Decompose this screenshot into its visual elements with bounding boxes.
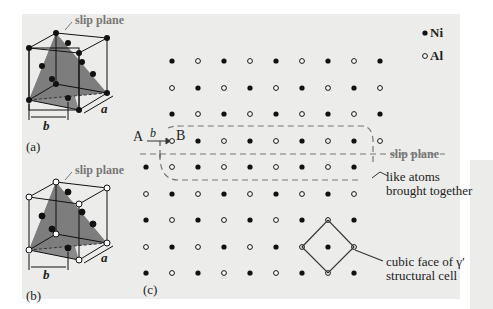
a-label-b: a: [101, 251, 108, 264]
ni-atom: [351, 85, 356, 90]
ni-atom: [351, 270, 356, 275]
al-atom: [196, 245, 201, 250]
al-atom: [170, 271, 175, 276]
ni-atom: [247, 138, 252, 143]
ni-atom: [221, 111, 226, 116]
ni-atom: [143, 164, 148, 169]
al-atom: [248, 245, 253, 250]
al-atom: [170, 86, 175, 91]
point-b-label: B: [176, 129, 185, 143]
al-legend-dot: [423, 54, 428, 59]
ni-atom: [299, 270, 304, 275]
al-atom: [222, 86, 227, 91]
ni-atom: [273, 111, 278, 116]
al-atom: [274, 218, 279, 223]
al-atom: [378, 139, 383, 144]
ni-atom: [351, 217, 356, 222]
ni-atom: [195, 217, 200, 222]
al-atom: [352, 192, 357, 197]
ni-atom: [221, 191, 226, 196]
slip-plane-label-c: slip plane: [390, 148, 439, 160]
ni-atom: [351, 138, 356, 143]
al-atom: [196, 192, 201, 197]
ni-atom: [325, 244, 330, 249]
al-atom: [274, 86, 279, 91]
al-atom: [274, 271, 279, 276]
ni-atom: [143, 217, 148, 222]
legend-al: Al: [430, 49, 443, 62]
ni-atom: [351, 164, 356, 169]
al-atom: [196, 59, 201, 64]
al-atom: [144, 245, 149, 250]
al-atom: [326, 139, 331, 144]
panel-label-c: (c): [143, 283, 157, 296]
ni-atom: [195, 85, 200, 90]
ni-legend-dot: [422, 30, 427, 35]
ni-atom: [377, 58, 382, 63]
a-label-a: a: [101, 102, 108, 115]
al-atom: [326, 86, 331, 91]
al-atom: [326, 165, 331, 170]
b-label-b: b: [43, 268, 50, 281]
al-atom: [352, 59, 357, 64]
al-atom: [222, 139, 227, 144]
slip-plane-label-b: slip plane: [75, 164, 124, 176]
ni-atom: [273, 58, 278, 63]
al-atom: [300, 192, 305, 197]
like-atoms-line1: like atoms: [386, 170, 440, 183]
panel-label-b: (b): [26, 289, 41, 302]
ni-atom: [273, 191, 278, 196]
al-atom: [300, 112, 305, 117]
point-a-label: A: [133, 130, 143, 144]
ni-atom: [325, 191, 330, 196]
al-atom: [274, 139, 279, 144]
ni-atom: [169, 244, 174, 249]
ni-atom: [299, 217, 304, 222]
ni-atom: [195, 270, 200, 275]
al-atom: [170, 218, 175, 223]
ni-atom: [169, 111, 174, 116]
al-atom: [222, 218, 227, 223]
atom-lattice: [143, 58, 382, 275]
burgers-b-label: b: [150, 127, 156, 139]
al-atom: [248, 112, 253, 117]
al-atom: [248, 59, 253, 64]
al-atom: [274, 165, 279, 170]
ni-atom: [221, 58, 226, 63]
ni-atom: [169, 58, 174, 63]
cubic-face-line1: cubic face of γ′: [386, 255, 465, 268]
ni-atom: [377, 111, 382, 116]
al-atom: [144, 192, 149, 197]
ni-atom: [273, 244, 278, 249]
ni-atom: [247, 85, 252, 90]
legend-ni: Ni: [430, 26, 443, 39]
ni-atom: [247, 217, 252, 222]
ni-atom: [325, 58, 330, 63]
ni-atom: [247, 270, 252, 275]
al-atom: [170, 165, 175, 170]
al-atom: [222, 271, 227, 276]
ni-atom: [195, 138, 200, 143]
ni-atom: [299, 164, 304, 169]
al-atom: [196, 112, 201, 117]
like-atoms-line2: brought together: [386, 184, 472, 197]
slip-plane-label-a: slip plane: [75, 14, 124, 26]
ni-atom: [299, 138, 304, 143]
cubic-face-line2: structural cell: [386, 269, 457, 282]
al-atom: [378, 86, 383, 91]
ni-atom: [169, 191, 174, 196]
ni-atom: [325, 111, 330, 116]
cubic-face-diamond: [302, 220, 383, 273]
ni-atom: [221, 244, 226, 249]
ni-atom: [299, 85, 304, 90]
al-atom: [248, 192, 253, 197]
panel-label-a: (a): [26, 140, 40, 153]
ni-atom: [195, 164, 200, 169]
ni-atom: [247, 164, 252, 169]
b-label-a: b: [43, 119, 50, 132]
al-atom: [300, 59, 305, 64]
al-atom: [222, 165, 227, 170]
ni-atom: [143, 270, 148, 275]
al-atom: [352, 112, 357, 117]
